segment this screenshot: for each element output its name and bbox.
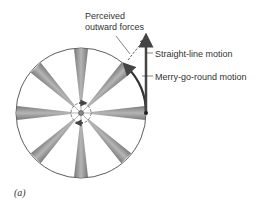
merry-go-round-motion-label: Merry-go-round motion [155, 72, 247, 82]
perceived-label-line1: Perceived [85, 11, 125, 21]
perceived-force-leader [116, 36, 130, 54]
hub [79, 111, 84, 116]
straight-line-motion-label: Straight-line motion [155, 49, 233, 59]
figure-caption: (a) [14, 187, 26, 199]
perceived-label-line2: outward forces [85, 22, 145, 32]
wheel-spokes [17, 49, 145, 177]
rider-point [144, 111, 148, 115]
perceived-outward-force-arrow [128, 41, 143, 60]
merry-go-round-diagram: Perceived outward forces Straight-line m… [0, 0, 269, 207]
